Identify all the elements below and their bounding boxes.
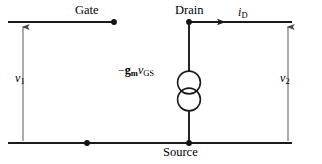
gate-terminal-node xyxy=(111,19,117,25)
drain-current-label: iD xyxy=(238,6,248,20)
source-sign: − xyxy=(118,63,125,77)
drain-current-subscript: D xyxy=(242,10,248,20)
drain-terminal-label: Drain xyxy=(175,4,203,17)
v2-subscript: 2 xyxy=(286,76,290,86)
circuit-schematic xyxy=(0,0,322,164)
v2-symbol: v xyxy=(280,71,285,85)
v2-label: v2 xyxy=(280,72,290,86)
source-terminal-label: Source xyxy=(163,146,198,159)
transconductance-subscript: m xyxy=(131,68,138,78)
v1-subscript: 1 xyxy=(21,76,25,86)
control-voltage-subscript: GS xyxy=(143,68,154,78)
dependent-current-source-icon xyxy=(178,71,201,111)
gate-terminal-label: Gate xyxy=(75,4,99,17)
v1-label: v1 xyxy=(15,72,25,86)
drain-current-symbol: i xyxy=(238,5,241,19)
circuit-diagram-canvas: Gate Drain Source iD v1 v2 −gmvGS xyxy=(0,0,322,164)
dependent-source-label: −gmvGS xyxy=(118,64,154,78)
v1-symbol: v xyxy=(15,71,20,85)
gate-return-node xyxy=(84,140,90,146)
